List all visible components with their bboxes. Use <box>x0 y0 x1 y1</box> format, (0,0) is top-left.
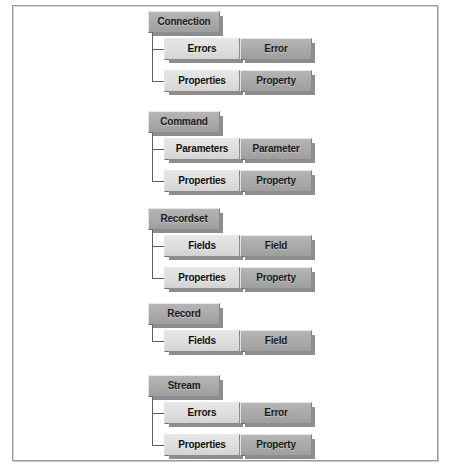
collection-node-connection-properties: Properties <box>164 70 240 92</box>
elbow-line-recordset-0 <box>152 246 164 247</box>
parent-node-recordset-label: Recordset <box>160 214 207 224</box>
collection-node-recordset-fields: Fields <box>164 235 240 257</box>
elbow-line-stream-0 <box>152 413 164 414</box>
object-node-stream-property-label: Property <box>256 440 296 450</box>
diagram-canvas: ConnectionErrorsErrorPropertiesPropertyC… <box>0 0 451 474</box>
object-node-stream-error: Error <box>240 402 312 424</box>
elbow-line-connection-1 <box>152 81 164 82</box>
collection-node-recordset-properties-label: Properties <box>178 273 225 283</box>
collection-node-stream-errors-label: Errors <box>188 408 217 418</box>
collection-node-command-properties-label: Properties <box>178 176 225 186</box>
object-node-connection-error: Error <box>240 38 312 60</box>
diagram-page: ConnectionErrorsErrorPropertiesPropertyC… <box>0 0 451 474</box>
object-node-stream-error-label: Error <box>264 408 287 418</box>
parent-node-command-label: Command <box>160 117 208 127</box>
object-node-command-parameter: Parameter <box>240 138 312 160</box>
elbow-line-record-0 <box>152 341 164 342</box>
object-node-connection-property-label: Property <box>256 76 296 86</box>
parent-node-connection: Connection <box>148 11 220 33</box>
object-node-recordset-field: Field <box>240 235 312 257</box>
object-node-command-parameter-label: Parameter <box>252 144 299 154</box>
collection-node-stream-errors: Errors <box>164 402 240 424</box>
collection-node-connection-properties-label: Properties <box>178 76 225 86</box>
object-node-record-field: Field <box>240 330 312 352</box>
collection-node-record-fields: Fields <box>164 330 240 352</box>
object-node-command-property-label: Property <box>256 176 296 186</box>
trunk-line-recordset <box>152 230 153 278</box>
object-node-stream-property: Property <box>240 434 312 456</box>
parent-node-stream-label: Stream <box>168 381 201 391</box>
object-node-command-property: Property <box>240 170 312 192</box>
trunk-line-record <box>152 325 153 341</box>
trunk-line-connection <box>152 33 153 81</box>
elbow-line-stream-1 <box>152 445 164 446</box>
collection-node-record-fields-label: Fields <box>188 336 216 346</box>
trunk-line-command <box>152 133 153 181</box>
collection-node-connection-errors-label: Errors <box>188 44 217 54</box>
collection-node-stream-properties-label: Properties <box>178 440 225 450</box>
object-node-recordset-property: Property <box>240 267 312 289</box>
parent-node-stream: Stream <box>148 375 220 397</box>
collection-node-recordset-fields-label: Fields <box>188 241 216 251</box>
elbow-line-connection-0 <box>152 49 164 50</box>
parent-node-record-label: Record <box>167 309 200 319</box>
object-node-connection-property: Property <box>240 70 312 92</box>
object-node-recordset-property-label: Property <box>256 273 296 283</box>
parent-node-recordset: Recordset <box>148 208 220 230</box>
object-node-record-field-label: Field <box>265 336 287 346</box>
collection-node-connection-errors: Errors <box>164 38 240 60</box>
collection-node-command-parameters-label: Parameters <box>176 144 228 154</box>
elbow-line-command-1 <box>152 181 164 182</box>
collection-node-stream-properties: Properties <box>164 434 240 456</box>
collection-node-command-parameters: Parameters <box>164 138 240 160</box>
parent-node-command: Command <box>148 111 220 133</box>
object-node-connection-error-label: Error <box>264 44 287 54</box>
parent-node-record: Record <box>148 303 220 325</box>
object-node-recordset-field-label: Field <box>265 241 287 251</box>
collection-node-recordset-properties: Properties <box>164 267 240 289</box>
elbow-line-command-0 <box>152 149 164 150</box>
elbow-line-recordset-1 <box>152 278 164 279</box>
parent-node-connection-label: Connection <box>158 17 211 27</box>
collection-node-command-properties: Properties <box>164 170 240 192</box>
trunk-line-stream <box>152 397 153 445</box>
